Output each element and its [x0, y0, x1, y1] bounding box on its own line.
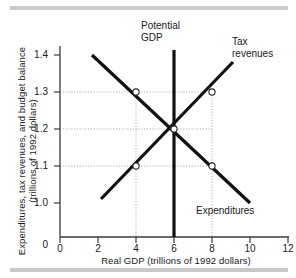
y-axis-title-line2: (trillions of 1992 dollars) [27, 99, 38, 203]
y-axis-title: Expenditures, tax revenues, and budget b… [16, 46, 38, 256]
x-axis-title: Real GDP (trillions of 1992 dollars) [60, 255, 292, 266]
xtick-label-2: 2 [89, 243, 107, 254]
xtick-label-4: 4 [127, 243, 145, 254]
series-label-tax-revenues: Tax revenues [232, 36, 273, 60]
xtick-label-12: 12 [279, 243, 296, 254]
series-label-expenditures: Expenditures [196, 205, 254, 217]
xtick-label-6: 6 [165, 243, 183, 254]
xtick-label-8: 8 [203, 243, 221, 254]
y-axis-title-line1: Expenditures, tax revenues, and budget b… [16, 47, 27, 255]
y-axis-ticks [54, 55, 60, 203]
marker-8-1.1 [209, 163, 215, 169]
xtick-label-0: 0 [51, 243, 69, 254]
marker-6-1.2 [171, 126, 177, 132]
series-label-potential-gdp: Potential GDP [141, 20, 180, 44]
marker-4-1.1 [133, 163, 139, 169]
marker-8-1.3 [209, 89, 215, 95]
figure: 1.4 1.3 1.2 1.1 1.0 0 0 2 4 6 8 10 12 Ex… [0, 0, 296, 278]
xtick-label-10: 10 [241, 243, 259, 254]
marker-4-1.3 [133, 89, 139, 95]
